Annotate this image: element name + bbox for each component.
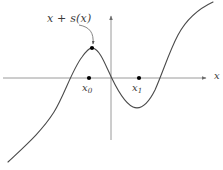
annotation-label: x + s(x) <box>47 13 91 24</box>
figure-canvas <box>0 0 223 170</box>
x0-label: x0 <box>82 83 92 94</box>
x1-label-subscript: 1 <box>138 86 143 95</box>
math-figure: x + s(x) x0 x1 x <box>0 0 223 170</box>
x1-label: x1 <box>132 83 142 94</box>
annotation-arrow <box>79 25 93 44</box>
point-x1 <box>137 76 141 80</box>
point-x0 <box>87 76 91 80</box>
x-axis-label: x <box>214 71 220 81</box>
point-peak <box>90 46 94 50</box>
x0-label-subscript: 0 <box>88 86 93 95</box>
